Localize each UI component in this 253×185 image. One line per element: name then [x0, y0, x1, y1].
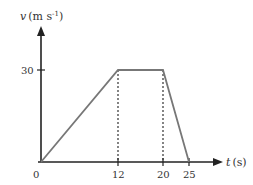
origin-label: 0	[33, 169, 39, 180]
velocity-time-graph: v(m s-1) 30 0 12 20 25 t(s)	[0, 0, 253, 185]
y-axis-arrow-icon	[37, 26, 45, 36]
x-tick-label-12: 12	[112, 169, 125, 180]
x-axis-arrow-icon	[213, 158, 223, 166]
x-tick-label-20: 20	[157, 169, 170, 180]
x-axis-label: t(s)	[226, 156, 247, 169]
velocity-line	[41, 70, 189, 162]
y-tick-label-30: 30	[21, 65, 34, 76]
y-axis-label: v(m s-1)	[20, 10, 63, 23]
x-tick-label-25: 25	[183, 169, 196, 180]
